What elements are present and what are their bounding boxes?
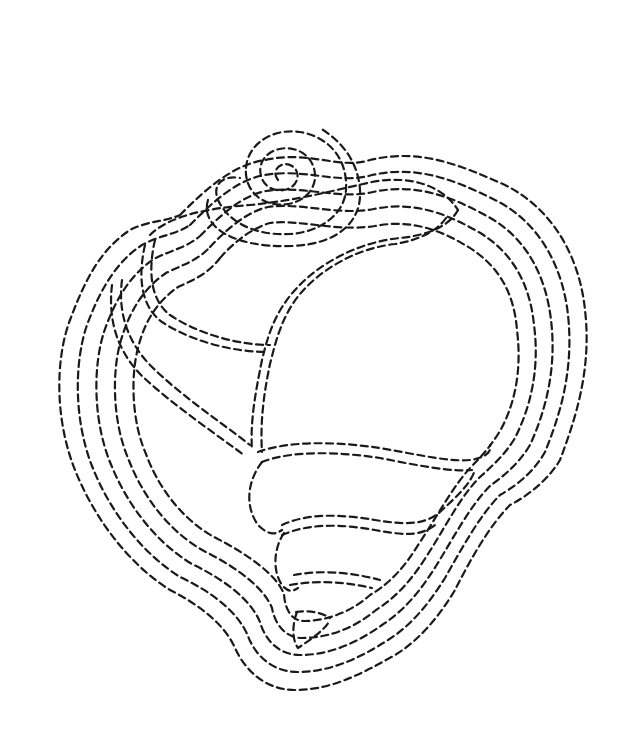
outer-contours xyxy=(59,156,586,690)
shell-drawing xyxy=(0,0,628,756)
lower-whorls xyxy=(249,443,490,648)
shell-illustration: Seashell line drawing made of dashed lin… xyxy=(0,0,628,756)
body-whorl xyxy=(111,180,458,455)
